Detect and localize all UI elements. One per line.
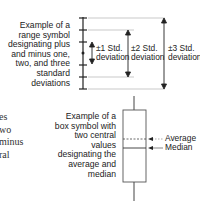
std3-arrow xyxy=(162,18,167,89)
std2-arrow xyxy=(126,30,131,77)
diagram-graphics xyxy=(0,0,200,201)
guide-lines xyxy=(88,18,165,89)
std1-arrow xyxy=(90,42,95,64)
average-pointer xyxy=(148,137,163,141)
box-symbol xyxy=(123,96,146,201)
median-pointer xyxy=(148,146,163,150)
range-symbol xyxy=(79,17,87,89)
